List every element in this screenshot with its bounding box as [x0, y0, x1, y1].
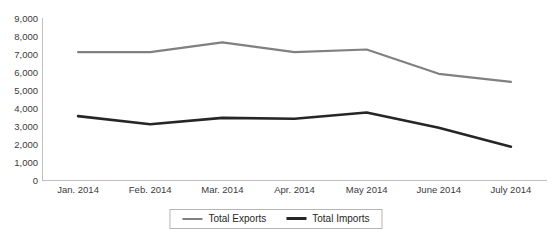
x-axis-tick-label: Mar. 2014 — [201, 184, 243, 195]
legend-swatch-icon-imports — [286, 217, 306, 220]
legend-item-total-exports[interactable]: Total Exports — [182, 213, 266, 224]
chart-legend: Total Exports Total Imports — [169, 209, 382, 229]
x-axis-tick-label: Jan. 2014 — [57, 184, 99, 195]
x-axis-tick-label: July 2014 — [491, 184, 532, 195]
legend-label-total-imports: Total Imports — [312, 213, 369, 224]
line-chart: 01,0002,0003,0004,0005,0006,0007,0008,00… — [0, 0, 552, 244]
x-axis-tick-label: Apr. 2014 — [274, 184, 315, 195]
series-line-total-exports — [78, 42, 511, 82]
series-plot — [0, 0, 552, 244]
x-axis-tick-label: June 2014 — [417, 184, 461, 195]
legend-item-total-imports[interactable]: Total Imports — [286, 213, 369, 224]
legend-label-total-exports: Total Exports — [208, 213, 266, 224]
legend-swatch-icon-exports — [182, 218, 202, 220]
x-axis-tick-label: May 2014 — [346, 184, 388, 195]
x-axis-tick-labels: Jan. 2014Feb. 2014Mar. 2014Apr. 2014May … — [42, 184, 547, 200]
series-line-total-imports — [78, 113, 511, 147]
x-axis-tick-label: Feb. 2014 — [129, 184, 172, 195]
